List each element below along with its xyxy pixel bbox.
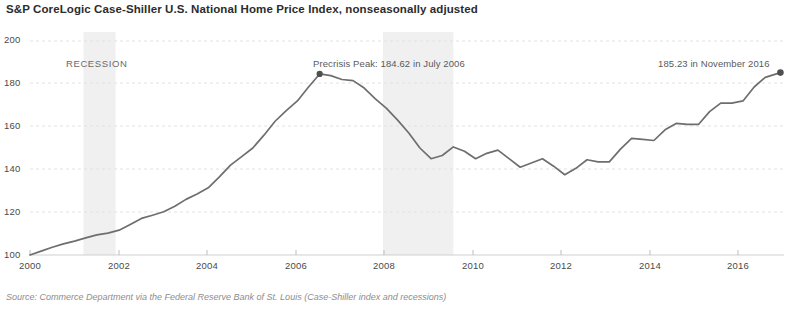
precrisis-peak-marker (317, 71, 323, 77)
y-axis-label-180: 180 (4, 77, 20, 88)
y-axis-label-120: 120 (4, 206, 20, 217)
x-axis-label-2000: 2000 (4, 260, 56, 271)
source-note: Source: Commerce Department via the Fede… (6, 292, 446, 302)
latest-value-annotation: 185.23 in November 2016 (658, 58, 770, 69)
y-axis-label-100: 100 (4, 249, 20, 260)
x-axis-label-2010: 2010 (447, 260, 499, 271)
latest-value-marker (777, 69, 784, 76)
x-axis-label-2002: 2002 (93, 260, 145, 271)
chart-title: S&P CoreLogic Case-Shiller U.S. National… (6, 3, 478, 15)
y-axis-label-160: 160 (4, 120, 20, 131)
plot-area: 200 180 160 140 120 100 2000 2002 2004 2… (0, 28, 786, 268)
x-axis-label-2006: 2006 (270, 260, 322, 271)
x-axis-ticks (30, 250, 738, 255)
x-axis-label-2014: 2014 (624, 260, 676, 271)
x-axis-label-2004: 2004 (181, 260, 233, 271)
x-axis-label-2008: 2008 (358, 260, 410, 271)
precrisis-peak-annotation: Precrisis Peak: 184.62 in July 2006 (313, 58, 465, 69)
recession-label: RECESSION (66, 58, 127, 69)
y-axis-label-200: 200 (4, 34, 20, 45)
home-price-index-chart: S&P CoreLogic Case-Shiller U.S. National… (0, 0, 786, 312)
x-axis-label-2016: 2016 (712, 260, 764, 271)
y-axis-label-140: 140 (4, 163, 20, 174)
x-axis-label-2012: 2012 (535, 260, 587, 271)
